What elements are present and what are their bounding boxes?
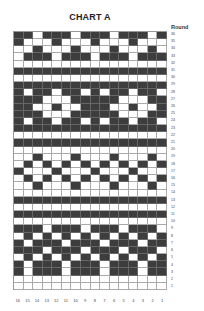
chart-cell xyxy=(148,111,158,118)
chart-cell xyxy=(110,154,120,161)
stitch-number: 11 xyxy=(61,298,71,303)
chart-cell xyxy=(14,53,24,60)
chart-cell xyxy=(33,161,43,168)
chart-cell xyxy=(157,211,167,218)
chart-cell xyxy=(119,247,129,254)
chart-cell xyxy=(71,39,81,46)
chart-cell xyxy=(100,268,110,275)
chart-cell xyxy=(119,89,129,96)
chart-cell xyxy=(14,96,24,103)
chart-cell xyxy=(71,61,81,68)
chart-cell xyxy=(100,175,110,182)
chart-cell xyxy=(157,225,167,232)
chart-cell xyxy=(110,182,120,189)
chart-cell xyxy=(138,154,148,161)
chart-cell xyxy=(157,61,167,68)
chart-cell xyxy=(71,261,81,268)
chart-cell xyxy=(14,46,24,53)
chart-cell xyxy=(62,247,72,254)
chart-cell xyxy=(81,261,91,268)
chart-cell xyxy=(148,168,158,175)
stitch-number: 16 xyxy=(13,298,23,303)
round-number: 31 xyxy=(171,67,175,74)
stitch-number: 1 xyxy=(157,298,167,303)
chart-cell xyxy=(148,104,158,111)
chart-cell xyxy=(148,32,158,39)
chart-cell xyxy=(129,218,139,225)
chart-cell xyxy=(119,154,129,161)
round-number: 4 xyxy=(171,262,175,269)
chart-cell xyxy=(157,175,167,182)
chart-cell xyxy=(52,204,62,211)
chart-cell xyxy=(43,61,53,68)
chart-cell xyxy=(129,276,139,283)
chart-cell xyxy=(43,247,53,254)
chart-cell xyxy=(129,75,139,82)
chart-cell xyxy=(24,240,34,247)
chart-cell xyxy=(71,75,81,82)
round-number: 30 xyxy=(171,74,175,81)
chart-cell xyxy=(91,154,101,161)
chart-cell xyxy=(43,254,53,261)
chart-cell xyxy=(33,104,43,111)
chart-cell xyxy=(100,240,110,247)
chart-cell xyxy=(52,225,62,232)
chart-cell xyxy=(100,125,110,132)
chart-cell xyxy=(138,254,148,261)
chart-cell xyxy=(148,190,158,197)
round-number: 8 xyxy=(171,233,175,240)
chart-cell xyxy=(148,283,158,290)
chart-cell xyxy=(100,154,110,161)
round-number: 28 xyxy=(171,89,175,96)
stitch-number: 8 xyxy=(90,298,100,303)
chart-cell xyxy=(14,75,24,82)
chart-cell xyxy=(138,283,148,290)
chart-cell xyxy=(148,68,158,75)
chart-cell xyxy=(110,32,120,39)
stitch-number: 15 xyxy=(23,298,33,303)
chart-cell xyxy=(14,283,24,290)
chart-cell xyxy=(91,125,101,132)
chart-cell xyxy=(14,254,24,261)
chart-cell xyxy=(14,104,24,111)
chart-cell xyxy=(24,283,34,290)
chart-cell xyxy=(81,89,91,96)
chart-cell xyxy=(129,161,139,168)
chart-cell xyxy=(52,61,62,68)
chart-cell xyxy=(119,161,129,168)
chart-cell xyxy=(81,240,91,247)
chart-cell xyxy=(71,125,81,132)
round-number: 32 xyxy=(171,60,175,67)
chart-cell xyxy=(91,197,101,204)
chart-cell xyxy=(33,218,43,225)
chart-cell xyxy=(110,276,120,283)
chart-cell xyxy=(157,218,167,225)
chart-cell xyxy=(119,32,129,39)
chart-cell xyxy=(138,218,148,225)
chart-cell xyxy=(138,190,148,197)
chart-cell xyxy=(81,147,91,154)
chart-cell xyxy=(81,175,91,182)
chart-cell xyxy=(148,53,158,60)
round-number: 14 xyxy=(171,189,175,196)
round-number: 13 xyxy=(171,197,175,204)
chart-cell xyxy=(138,197,148,204)
stitch-number: 3 xyxy=(138,298,148,303)
chart-cell xyxy=(71,139,81,146)
chart-cell xyxy=(81,211,91,218)
chart-cell xyxy=(52,39,62,46)
chart-cell xyxy=(62,82,72,89)
chart-cell xyxy=(52,197,62,204)
chart-cell xyxy=(119,139,129,146)
chart-cell xyxy=(24,139,34,146)
chart-cell xyxy=(81,132,91,139)
chart-cell xyxy=(24,261,34,268)
chart-cell xyxy=(129,132,139,139)
chart-cell xyxy=(14,168,24,175)
chart-cell xyxy=(71,211,81,218)
round-numbers: 3635343332313029282726252423222120191817… xyxy=(171,31,175,290)
chart-cell xyxy=(43,147,53,154)
chart-cell xyxy=(71,233,81,240)
chart-cell xyxy=(91,218,101,225)
chart-cell xyxy=(110,125,120,132)
